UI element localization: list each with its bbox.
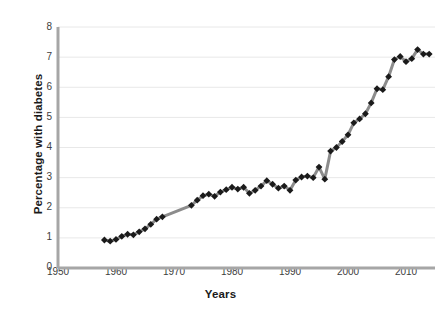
- data-point-marker: [234, 186, 241, 193]
- data-point-marker: [107, 238, 114, 245]
- series-line: [104, 50, 429, 242]
- series-markers: [101, 46, 433, 244]
- plot-area: [0, 0, 441, 312]
- diabetes-prevalence-chart: Percentage with diabetes 8 7 6 5 4 3 2 1…: [0, 0, 441, 312]
- data-point-marker: [304, 173, 311, 180]
- gridlines: [58, 27, 435, 238]
- data-point-marker: [426, 51, 433, 58]
- x-axis-title: Years: [0, 288, 441, 300]
